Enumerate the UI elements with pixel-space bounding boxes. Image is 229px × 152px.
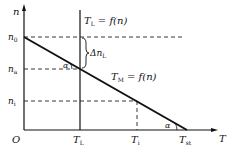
delta-n-label: ΔnL bbox=[89, 48, 106, 59]
x-axis-label: T bbox=[219, 133, 227, 144]
ni-label: ni bbox=[8, 96, 16, 107]
load-curve-label: TL = f(n) bbox=[84, 15, 127, 27]
tst-tick-label: Tst bbox=[179, 134, 192, 146]
motor-curve bbox=[24, 37, 187, 130]
y-axis-arrow-icon bbox=[22, 4, 26, 11]
ti-tick-label: Ti bbox=[131, 134, 140, 146]
x-axis-arrow-icon bbox=[211, 128, 218, 132]
motor-curve-label: TM = f(n) bbox=[111, 71, 157, 83]
na-label: na bbox=[8, 64, 18, 75]
delta-brace-icon bbox=[82, 38, 89, 68]
n0-label: n0 bbox=[8, 32, 18, 43]
tl-tick-label: TL bbox=[73, 134, 84, 146]
alpha-label-1: α bbox=[63, 61, 69, 70]
y-axis-label: n bbox=[13, 6, 19, 17]
alpha-label-2: α bbox=[165, 121, 171, 130]
origin-label: O bbox=[12, 134, 20, 145]
speed-torque-diagram: n T O n0 na ni TL Ti Tst TL = f(n) TM = … bbox=[0, 0, 229, 152]
